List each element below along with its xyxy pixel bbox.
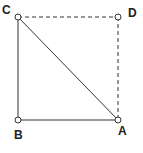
label-c: C [2,3,11,17]
segment-ca [18,17,118,120]
label-a: A [118,124,127,138]
point-c [15,14,21,20]
label-b: B [14,128,23,142]
point-b [15,117,21,123]
point-d [115,14,121,20]
label-d: D [128,6,137,20]
point-a [115,117,121,123]
triangle-square-diagram: C D B A [0,0,143,153]
